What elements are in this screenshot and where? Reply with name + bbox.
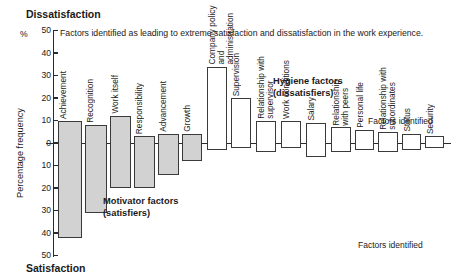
x-axis-title-bottom: Factors identified	[358, 240, 423, 250]
y-axis-tick-value: 10	[29, 160, 51, 170]
y-axis-tick-value: 40	[29, 228, 51, 238]
y-axis-tick-value: 20	[29, 183, 51, 193]
bar-label-work-itself: Work itself	[111, 75, 131, 114]
bar-label-recognition: Recognition	[86, 79, 107, 123]
satisfaction-pole-label: Satisfaction	[26, 262, 86, 274]
bar-label-salary: Salary	[307, 97, 326, 121]
y-axis-tick	[53, 52, 58, 53]
bar-label-supervision: Supervision	[232, 53, 251, 96]
bar-work-itself	[110, 116, 131, 188]
y-axis-tick-value: 30	[29, 70, 51, 80]
bar-relationship-with-peers	[331, 127, 351, 152]
bar-achievement	[58, 121, 82, 238]
y-axis-title: Percentage frequency	[15, 88, 25, 218]
bar-label-advancement: Advancement	[159, 81, 179, 132]
bar-supervision	[231, 98, 251, 148]
y-axis-tick-value: 20	[29, 93, 51, 103]
bar-work-conditions	[281, 121, 301, 148]
bar-advancement	[158, 134, 179, 175]
percent-sign-label: %	[20, 29, 28, 39]
y-axis-tick	[53, 255, 58, 256]
y-axis-tick-value: 30	[29, 205, 51, 215]
x-axis-title-top: Factors identified	[368, 116, 433, 126]
bar-label-achievement: Achievement	[59, 71, 82, 119]
bar-relationship-with-subordinates	[378, 132, 398, 152]
bar-responsibility	[134, 136, 155, 188]
dissatisfaction-pole-label: Dissatisfaction	[26, 8, 101, 20]
bar-personal-life	[355, 130, 374, 150]
herzberg-two-factor-chart: Dissatisfaction Satisfaction Factors ide…	[0, 0, 455, 278]
bar-label-responsibility: Responsibility	[135, 83, 155, 134]
y-axis-tick-value: 40	[29, 48, 51, 58]
bar-growth	[182, 134, 202, 161]
bar-company-policy-and-administration	[207, 67, 227, 150]
y-axis-tick	[53, 30, 58, 31]
hygiene-group-annotation: Hygiene factors (dissatisfiers)	[273, 76, 343, 100]
bar-label-growth: Growth	[183, 105, 202, 132]
bar-security	[425, 136, 444, 147]
y-axis-tick-value: 10	[29, 115, 51, 125]
bar-relationship-with-supervisor	[256, 121, 276, 153]
bar-status	[402, 134, 421, 150]
y-axis-tick-value: 50	[29, 25, 51, 35]
motivator-group-annotation: Motivator factors (satisfiers)	[103, 196, 178, 220]
chart-subtitle: Factors identified as leading to extreme…	[60, 28, 423, 38]
bar-salary	[306, 123, 326, 157]
bar-label-company-policy-and-administration: Company policy and administration	[208, 0, 227, 65]
y-axis-tick-value: 50	[29, 250, 51, 260]
